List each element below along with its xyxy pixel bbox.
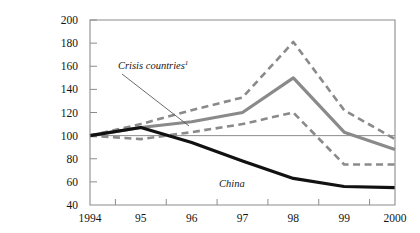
line-chart: 406080100120140160180200 199495969798992… (0, 0, 420, 233)
x-tick-label: 97 (237, 212, 249, 224)
y-tick-label: 200 (61, 14, 79, 26)
x-tick-label: 95 (135, 212, 147, 224)
x-tick-label: 99 (338, 212, 350, 224)
y-tick-label: 160 (61, 60, 79, 72)
x-tick-label: 96 (186, 212, 198, 224)
x-tick-label: 1994 (79, 212, 102, 224)
x-tick-label: 98 (288, 212, 300, 224)
y-tick-label: 120 (61, 107, 79, 119)
y-tick-label: 80 (67, 153, 79, 165)
footnote-marker: 1 (185, 59, 189, 67)
y-tick-label: 60 (67, 176, 79, 188)
x-tick-label: 2000 (384, 212, 407, 224)
y-tick-label: 140 (61, 83, 79, 95)
y-tick-label: 40 (67, 199, 79, 211)
series-annotation-china: China (219, 178, 245, 189)
series-annotation-crisis: Crisis countries1 (118, 59, 188, 71)
chart-figure: 406080100120140160180200 199495969798992… (0, 0, 420, 233)
y-tick-label: 180 (61, 37, 79, 49)
y-tick-label: 100 (61, 130, 79, 142)
